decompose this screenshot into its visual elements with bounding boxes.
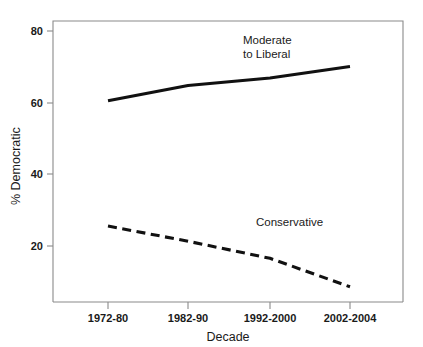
annotation-moderate-line1: Moderate xyxy=(243,34,292,46)
chart-figure: 80 60 40 20 % Democratic 1972-80 1982-90… xyxy=(0,0,423,347)
annotation-moderate-line2: to Liberal xyxy=(243,48,290,60)
line-chart: 80 60 40 20 % Democratic 1972-80 1982-90… xyxy=(0,0,423,347)
x-tick-label-1982-90: 1982-90 xyxy=(168,312,208,324)
y-tick-label-60: 60 xyxy=(31,97,43,109)
y-axis-title: % Democratic xyxy=(9,127,23,205)
y-tick-label-40: 40 xyxy=(31,168,43,180)
y-tick-label-20: 20 xyxy=(31,240,43,252)
annotation-conservative: Conservative xyxy=(256,216,323,228)
x-tick-label-2002-2004: 2002-2004 xyxy=(324,312,377,324)
x-axis-title: Decade xyxy=(206,330,249,344)
x-tick-label-1992-2000: 1992-2000 xyxy=(244,312,297,324)
y-tick-label-80: 80 xyxy=(31,25,43,37)
chart-background xyxy=(0,0,423,347)
x-tick-label-1972-80: 1972-80 xyxy=(88,312,128,324)
